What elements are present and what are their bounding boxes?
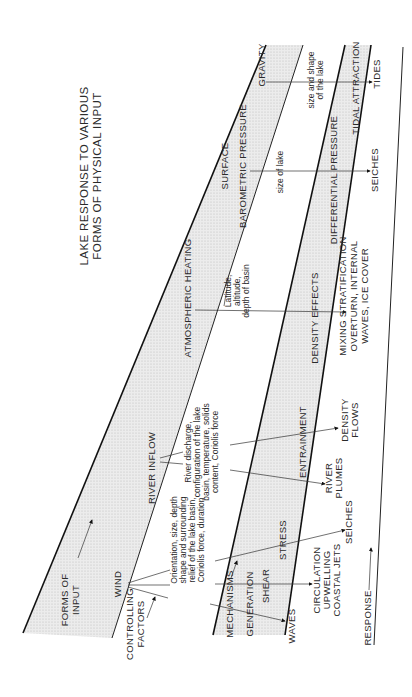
mechanism-stress: STRESS xyxy=(277,520,288,560)
band-generation: GENERATION xyxy=(244,571,255,636)
factor-gravity-2: of the lake xyxy=(315,60,325,99)
response-mixing-3: WAVES, ICE COVER xyxy=(359,248,370,344)
factor-wind-4: Coriolis force, duration xyxy=(196,497,206,582)
input-gravity: GRAVITY xyxy=(256,43,267,86)
input-surface: SURFACE xyxy=(219,143,230,190)
title-line-1: LAKE RESPONSE TO VARIOUS xyxy=(78,87,90,266)
band-controlling-factors-2: FACTORS xyxy=(135,601,146,648)
controlling-factors-arrow xyxy=(147,597,155,618)
lake-response-diagram: LAKE RESPONSE TO VARIOUS FORMS OF PHYSIC… xyxy=(0,0,412,697)
band-response: RESPONSE xyxy=(362,590,373,645)
response-seiches-top: SEICHES xyxy=(369,148,380,192)
mechanism-differential-pressure: DIFFERENTIAL PRESSURE xyxy=(328,116,339,244)
title-line-2: FORMS OF PHYSICAL INPUT xyxy=(91,92,103,259)
band-mechanisms: MECHANISMS xyxy=(224,570,235,637)
response-density-flows-2: FLOWS xyxy=(349,402,360,437)
band-controlling-factors-1: CONTROLLING xyxy=(124,588,135,660)
response-arrow xyxy=(369,548,371,590)
input-band-outer-line xyxy=(23,45,266,633)
response-seiches-bottom: SEICHES xyxy=(343,500,354,544)
input-atmospheric-heating: ATMOSPHERIC HEATING xyxy=(182,239,193,358)
mechanism-density-effects: DENSITY EFFECTS xyxy=(309,272,320,363)
input-wind: WIND xyxy=(112,571,123,598)
mechanism-shear: SHEAR xyxy=(260,569,271,603)
band-forms-of-input-1: FORMS OF xyxy=(59,574,70,627)
response-river-plumes-2: PLUMES xyxy=(333,458,344,499)
wind-connector-1 xyxy=(128,570,170,583)
factor-heating-3: depth of basin xyxy=(241,264,251,318)
mechanism-entrainment: ENTRAINMENT xyxy=(297,406,308,478)
response-circulation-3: COASTAL JETS xyxy=(331,544,342,617)
response-tides: TIDES xyxy=(371,59,382,88)
factor-river-4: content, Coriolis force xyxy=(210,411,220,493)
response-line xyxy=(374,47,403,645)
band-forms-of-input-2: INPUT xyxy=(70,585,81,615)
mechanism-waves: WAVES xyxy=(286,609,297,644)
response-mixing-1: MIXING STRATIFICATION xyxy=(337,236,348,355)
input-barometric-pressure: BAROMETRIC PRESSURE xyxy=(237,104,248,228)
input-river-inflow: RIVER INFLOW xyxy=(146,432,157,504)
factor-pressure: size of lake xyxy=(275,150,285,193)
response-mixing-2: OVERTURN, INTERNAL xyxy=(348,241,359,352)
mechanism-tidal-attraction: TIDAL ATTRACTION xyxy=(350,41,361,134)
